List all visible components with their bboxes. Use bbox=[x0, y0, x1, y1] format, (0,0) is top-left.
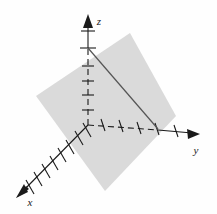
figure-root: x y bbox=[0, 0, 217, 214]
coordinate-system-figure: x y bbox=[0, 0, 217, 214]
y-axis-label: y bbox=[193, 144, 199, 156]
x-axis-label: x bbox=[27, 196, 33, 208]
z-axis-label: z bbox=[96, 15, 102, 27]
